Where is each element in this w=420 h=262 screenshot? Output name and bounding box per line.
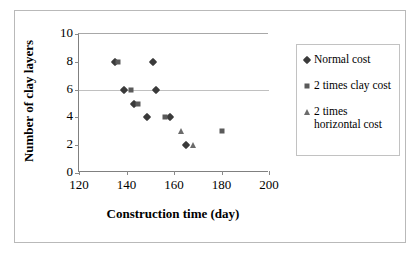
data-point-diamond xyxy=(120,85,128,93)
x-tick-mark xyxy=(174,171,175,175)
data-point-square xyxy=(162,115,167,120)
legend-marker-square xyxy=(302,79,314,92)
y-tick-mark xyxy=(75,34,79,35)
legend-marker-triangle xyxy=(302,105,314,118)
x-tick-mark xyxy=(269,171,270,175)
gridline xyxy=(79,90,269,91)
data-point-square xyxy=(129,87,134,92)
chart-legend: Normal cost2 times clay cost2 times hori… xyxy=(296,44,400,156)
legend-marker-diamond xyxy=(302,53,314,66)
y-tick-label: 10 xyxy=(47,25,73,41)
data-point-diamond xyxy=(142,113,150,121)
x-tick-mark xyxy=(79,171,80,175)
data-point-square xyxy=(219,129,224,134)
y-tick-mark xyxy=(75,117,79,118)
legend-item[interactable]: 2 times clay cost xyxy=(302,79,395,92)
legend-square-icon xyxy=(305,84,310,89)
legend-diamond-icon xyxy=(303,56,311,64)
x-tick-label: 160 xyxy=(154,177,194,192)
legend-item[interactable]: 2 times horizontal cost xyxy=(302,105,395,131)
legend-item[interactable]: Normal cost xyxy=(302,53,395,66)
data-point-diamond xyxy=(182,141,190,149)
x-tick-label: 120 xyxy=(59,177,99,192)
legend-label: 2 times clay cost xyxy=(314,79,395,92)
data-point-diamond xyxy=(148,58,156,66)
y-tick-mark xyxy=(75,90,79,91)
x-axis-title: Construction time (day) xyxy=(78,206,268,222)
legend-triangle-icon xyxy=(304,109,310,115)
x-tick-mark xyxy=(222,171,223,175)
y-axis-title: Number of clay layers xyxy=(21,26,37,176)
legend-label: Normal cost xyxy=(314,53,395,66)
data-point-triangle xyxy=(190,142,196,148)
data-point-triangle xyxy=(178,128,184,134)
x-tick-label: 180 xyxy=(202,177,242,192)
data-point-diamond xyxy=(152,85,160,93)
x-tick-label: 140 xyxy=(107,177,147,192)
data-point-diamond xyxy=(166,113,174,121)
y-tick-label: 6 xyxy=(47,81,73,97)
plot-area: 0246810 120140160180200 xyxy=(78,33,268,172)
legend-label: 2 times horizontal cost xyxy=(314,105,395,131)
y-tick-label: 2 xyxy=(47,136,73,152)
data-point-square xyxy=(136,101,141,106)
y-tick-label: 8 xyxy=(47,53,73,69)
scatter-chart-figure: 0246810 120140160180200 Construction tim… xyxy=(0,0,420,262)
y-tick-mark xyxy=(75,145,79,146)
y-tick-mark xyxy=(75,62,79,63)
y-tick-label: 4 xyxy=(47,108,73,124)
x-tick-label: 200 xyxy=(249,177,289,192)
data-point-square xyxy=(116,59,121,64)
x-tick-mark xyxy=(127,171,128,175)
